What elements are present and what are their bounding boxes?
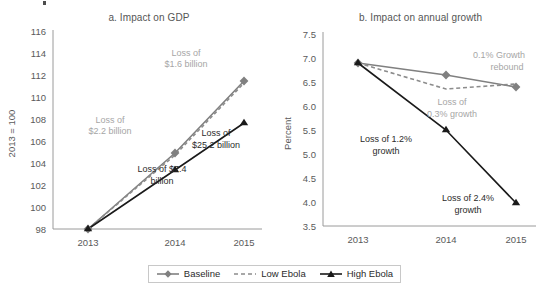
dashed-line-icon — [233, 269, 257, 279]
legend-label-high-ebola: High Ebola — [347, 268, 393, 279]
annotation-line: $2.2 billion — [88, 126, 131, 136]
legend-label-low-ebola: Low Ebola — [261, 268, 305, 279]
panel-b-annotation-2: Loss of 0.3% growth — [427, 97, 477, 119]
annotation-line: Loss of — [171, 48, 201, 58]
annotation-line: growth — [372, 146, 399, 156]
x-tick: 2013 — [347, 234, 368, 245]
panels-container: a. Impact on GDP 2013 = 100 116 114 112 … — [0, 0, 549, 258]
annotation-line: rebound — [490, 62, 523, 72]
x-tick: 2014 — [164, 237, 185, 248]
panel-b-y-ticks: 7.5 7.0 6.5 6.0 5.5 5.0 4.5 4.0 3.5 — [303, 29, 316, 232]
annotation-line: growth — [454, 205, 481, 215]
panel-b-annotation-3: Loss of 1.2% growth — [360, 134, 412, 156]
chart-panel-gdp: a. Impact on GDP 2013 = 100 116 114 112 … — [0, 0, 274, 258]
annotation-line: Loss of $7.4 — [137, 164, 186, 174]
x-tick: 2015 — [233, 237, 254, 248]
chart-panel-growth: b. Impact on annual growth Percent 7.5 7… — [274, 0, 549, 258]
panel-a-annotation-2: Loss of $2.2 billion — [88, 115, 131, 136]
legend-item-low-ebola[interactable]: Low Ebola — [233, 268, 305, 279]
annotation-line: billion — [150, 176, 173, 186]
figure-root: a. Impact on GDP 2013 = 100 116 114 112 … — [0, 0, 549, 291]
y-tick: 98 — [35, 224, 46, 235]
y-tick: 7.5 — [303, 29, 316, 40]
y-tick: 114 — [31, 48, 46, 59]
y-tick: 110 — [31, 92, 46, 103]
y-tick: 100 — [30, 202, 46, 213]
series-line-high-ebola — [358, 63, 516, 203]
legend-item-high-ebola[interactable]: High Ebola — [319, 268, 393, 279]
diamond-marker-icon — [156, 269, 180, 279]
y-tick: 7.0 — [303, 53, 316, 64]
y-tick: 6.0 — [303, 101, 316, 112]
series-markers-high-ebola — [354, 59, 520, 205]
panel-a-annotation-4: Loss of $7.4 billion — [137, 164, 186, 186]
annotation-line: $1.6 billion — [164, 59, 207, 69]
y-tick: 6.5 — [303, 77, 316, 88]
annotation-line: 0.3% growth — [427, 109, 477, 119]
annotation-line: 0.1% Growth — [473, 50, 525, 60]
panel-a-x-ticks: 2013 2014 2015 — [77, 237, 254, 248]
panel-a-y-ticks: 116 114 112 110 108 106 104 102 100 98 — [30, 26, 46, 235]
y-tick: 5.5 — [303, 125, 316, 136]
x-tick: 2015 — [505, 234, 526, 245]
y-tick: 104 — [30, 158, 46, 169]
annotation-line: Loss of — [95, 115, 125, 125]
y-tick: 102 — [30, 180, 46, 191]
y-tick: 3.5 — [303, 221, 316, 232]
y-tick: 5.0 — [303, 149, 316, 160]
annotation-line: Loss of 2.4% — [442, 193, 494, 203]
annotation-line: $25.2 billion — [192, 140, 240, 150]
series-markers-baseline — [84, 77, 249, 234]
y-tick: 112 — [31, 70, 46, 81]
series-line-baseline — [88, 81, 244, 229]
annotation-line: Loss of — [201, 128, 231, 138]
y-tick: 116 — [31, 26, 46, 37]
x-tick: 2014 — [435, 234, 456, 245]
panel-b-x-ticks: 2013 2014 2015 — [347, 234, 526, 245]
triangle-marker-icon — [319, 269, 343, 279]
panel-a-annotation-1: Loss of $1.6 billion — [164, 48, 207, 69]
legend-box: Baseline Low Ebola High Ebola — [148, 265, 401, 283]
panel-a-plot: 116 114 112 110 108 106 104 102 100 98 — [0, 0, 274, 258]
y-tick: 108 — [30, 114, 46, 125]
y-tick: 4.0 — [303, 197, 316, 208]
panel-b-annotation-1: 0.1% Growth rebound — [473, 50, 525, 72]
panel-b-plot: 7.5 7.0 6.5 6.0 5.5 5.0 4.5 4.0 3.5 — [274, 0, 549, 258]
panel-b-annotation-4: Loss of 2.4% growth — [442, 193, 494, 215]
y-tick: 4.5 — [303, 173, 316, 184]
annotation-line: Loss of 1.2% — [360, 134, 412, 144]
annotation-line: Loss of — [437, 97, 467, 107]
legend-label-baseline: Baseline — [184, 268, 220, 279]
x-tick: 2013 — [77, 237, 98, 248]
legend-item-baseline[interactable]: Baseline — [156, 268, 220, 279]
y-tick: 106 — [30, 136, 46, 147]
chart-legend: Baseline Low Ebola High Ebola — [0, 262, 549, 286]
